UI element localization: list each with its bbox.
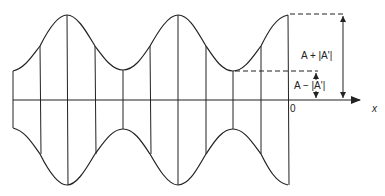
min-label: A − |A'| — [294, 80, 325, 91]
origin-label: 0 — [290, 103, 296, 114]
x-axis-label: x — [371, 103, 378, 114]
envelope-diagram: A + |A'| A − |A'| 0 x — [0, 0, 385, 196]
max-label: A + |A'| — [301, 50, 332, 61]
